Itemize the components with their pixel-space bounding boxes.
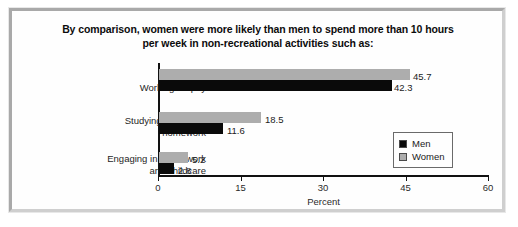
bar-women-engaging-in-housework-and-childcare — [159, 152, 188, 163]
x-axis-tick-label-45: 45 — [400, 182, 411, 193]
value-label-women-engaging-in-housework-and-childcare: 5.2 — [192, 154, 205, 165]
x-axis-tick-label-0: 0 — [155, 182, 160, 193]
x-axis-tick-15 — [241, 176, 242, 181]
bar-women-working-for-pay — [159, 69, 410, 80]
bar-men-working-for-pay — [159, 80, 392, 91]
legend-swatch-men-icon — [399, 140, 407, 148]
x-axis-tick-label-60: 60 — [483, 182, 494, 193]
bar-women-studying-and-doing-homework — [159, 112, 261, 123]
bar-men-studying-and-doing-homework — [159, 123, 223, 134]
chart-legend: Men Women — [393, 132, 453, 168]
value-label-men-working-for-pay: 42.3 — [394, 82, 413, 93]
legend-label-men: Men — [412, 138, 430, 149]
value-label-women-working-for-pay: 45.7 — [413, 71, 432, 82]
chart-canvas: By comparison, women were more likely th… — [12, 11, 502, 209]
x-axis-tick-label-30: 30 — [318, 182, 329, 193]
value-label-women-studying-and-doing-homework: 18.5 — [265, 114, 284, 125]
value-label-men-engaging-in-housework-and-childcare: 2.8 — [178, 165, 191, 176]
x-axis-tick-0 — [158, 176, 159, 181]
legend-item-men: Men — [399, 137, 445, 150]
legend-label-women: Women — [412, 151, 445, 162]
bar-men-engaging-in-housework-and-childcare — [159, 163, 174, 174]
value-label-men-studying-and-doing-homework: 11.6 — [227, 125, 245, 136]
plot-area: 0 15 30 45 60 Percent Working for pay 45… — [12, 11, 502, 209]
legend-swatch-women-icon — [399, 153, 407, 161]
x-axis-label: Percent — [158, 196, 489, 207]
x-axis-tick-60 — [488, 176, 489, 181]
chart-frame: By comparison, women were more likely th… — [9, 8, 505, 212]
x-axis-tick-30 — [323, 176, 324, 181]
legend-item-women: Women — [399, 150, 445, 163]
x-axis-tick-label-15: 15 — [235, 182, 246, 193]
x-axis-tick-45 — [406, 176, 407, 181]
